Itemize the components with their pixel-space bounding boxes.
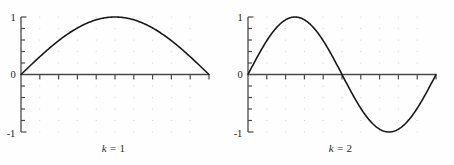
ytick-label-top-k1: 1: [10, 12, 15, 23]
plot-panel-k1: 1 0 -1 k = 1: [0, 0, 227, 165]
ytick-label-zero-k1: 0: [10, 69, 15, 80]
ytick-label-bottom-k2: -1: [234, 128, 243, 139]
caption-value-k2: = 2: [334, 142, 352, 154]
axes-k1: [21, 17, 209, 132]
caption-k2: k = 2: [227, 142, 454, 154]
ytick-label-bottom-k1: -1: [7, 128, 16, 139]
curve-sin-pi-x: [21, 17, 209, 75]
ytick-label-top-k2: 1: [237, 12, 242, 23]
caption-value-k1: = 1: [107, 142, 125, 154]
plot-panel-k2: 1 0 -1 k = 2: [227, 0, 454, 165]
caption-k1: k = 1: [0, 142, 227, 154]
plot-svg-k1: 1 0 -1: [0, 0, 227, 165]
ytick-label-zero-k2: 0: [237, 69, 242, 80]
figure-sine-eigenfunctions: 1 0 -1 k = 1 1 0 -1 k = 2: [0, 0, 454, 165]
plot-svg-k2: 1 0 -1: [227, 0, 454, 165]
